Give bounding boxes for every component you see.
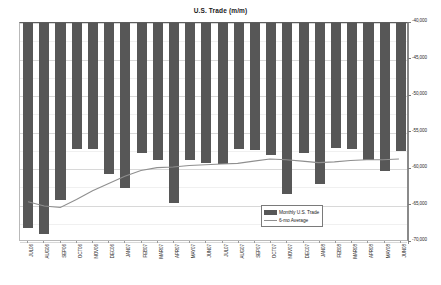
x-axis-tick-mark	[222, 241, 223, 243]
x-axis-tick-mark	[108, 241, 109, 243]
tick-mark	[408, 22, 411, 23]
x-axis-tick-label: JUL07	[224, 244, 229, 257]
legend-item-monthly-us-trade: Monthly U.S. Trade	[264, 208, 319, 216]
legend-label: Monthly U.S. Trade	[279, 210, 319, 215]
y-axis-tick-label: -65,000	[412, 201, 427, 206]
x-axis-tick-label: DEC07	[305, 244, 310, 258]
chart-legend: Monthly U.S. Trade 6-mo Average	[261, 205, 323, 227]
x-axis-tick-mark	[124, 241, 125, 243]
x-axis-tick-label: FEB08	[337, 244, 342, 258]
x-axis-tick-label: JUL06	[29, 244, 34, 257]
x-axis-tick-mark	[351, 241, 352, 243]
x-axis-tick-mark	[27, 241, 28, 243]
tick-mark	[408, 95, 411, 96]
y-axis: -40,000-45,000-50,000-55,000-60,000-65,0…	[408, 22, 441, 241]
x-axis-tick-label: JUN08	[402, 244, 407, 258]
plot-area	[19, 22, 408, 241]
x-axis-tick-mark	[141, 241, 142, 243]
y-axis-tick-label: -55,000	[412, 128, 427, 133]
x-axis-tick-mark	[270, 241, 271, 243]
y-axis-tick-label: -70,000	[412, 237, 427, 242]
x-axis-tick-label: MAR07	[159, 244, 164, 259]
line-swatch-icon	[264, 218, 277, 223]
tick-mark	[408, 131, 411, 132]
x-axis-tick-mark	[335, 241, 336, 243]
x-axis-tick-label: JAN07	[126, 244, 131, 257]
x-axis-tick-label: SEP07	[256, 244, 261, 258]
line-series-6-mo-average	[20, 23, 407, 240]
x-axis-tick-label: MAY07	[191, 244, 196, 258]
chart-title: U.S. Trade (m/m)	[0, 7, 441, 14]
x-axis-tick-mark	[303, 241, 304, 243]
x-axis-tick-mark	[238, 241, 239, 243]
legend-item-6-mo-average: 6-mo Average	[264, 216, 319, 224]
x-axis-tick-mark	[92, 241, 93, 243]
x-axis-tick-mark	[400, 241, 401, 243]
x-axis-tick-mark	[367, 241, 368, 243]
x-axis-tick-label: MAR08	[353, 244, 358, 259]
y-axis-tick-label: -45,000	[412, 55, 427, 60]
x-axis-tick-label: APR08	[369, 244, 374, 258]
x-axis-tick-mark	[254, 241, 255, 243]
x-axis-tick-label: OCT06	[78, 244, 83, 258]
x-axis-tick-mark	[384, 241, 385, 243]
tick-mark	[408, 204, 411, 205]
legend-label: 6-mo Average	[279, 218, 308, 223]
y-axis-tick-label: -50,000	[412, 91, 427, 96]
x-axis-tick-label: NOV07	[288, 244, 293, 259]
x-axis-tick-label: NOV06	[94, 244, 99, 259]
y-axis-tick-label: -60,000	[412, 164, 427, 169]
bar-swatch-icon	[264, 210, 277, 215]
x-axis-tick-label: DEC06	[110, 244, 115, 258]
x-axis-tick-label: AUG07	[240, 244, 245, 259]
x-axis-tick-label: JUN07	[207, 244, 212, 258]
tick-mark	[408, 241, 411, 242]
chart-container: U.S. Trade (m/m) -40,000-45,000-50,000-5…	[0, 0, 441, 285]
x-axis-tick-mark	[60, 241, 61, 243]
x-axis-tick-mark	[189, 241, 190, 243]
x-axis-tick-mark	[76, 241, 77, 243]
x-axis-tick-label: SEP06	[62, 244, 67, 258]
x-axis-tick-mark	[319, 241, 320, 243]
x-axis-tick-mark	[157, 241, 158, 243]
tick-mark	[408, 168, 411, 169]
x-axis-tick-mark	[173, 241, 174, 243]
x-axis-tick-label: JAN08	[321, 244, 326, 257]
x-axis-tick-label: APR07	[175, 244, 180, 258]
x-axis: JUL06AUG06SEP06OCT06NOV06DEC06JAN07FEB07…	[19, 241, 408, 285]
x-axis-tick-label: AUG06	[45, 244, 50, 259]
x-axis-tick-label: FEB07	[143, 244, 148, 258]
y-axis-tick-label: -40,000	[412, 18, 427, 23]
x-axis-tick-label: OCT07	[272, 244, 277, 258]
tick-mark	[408, 58, 411, 59]
x-axis-tick-label: MAY08	[386, 244, 391, 258]
